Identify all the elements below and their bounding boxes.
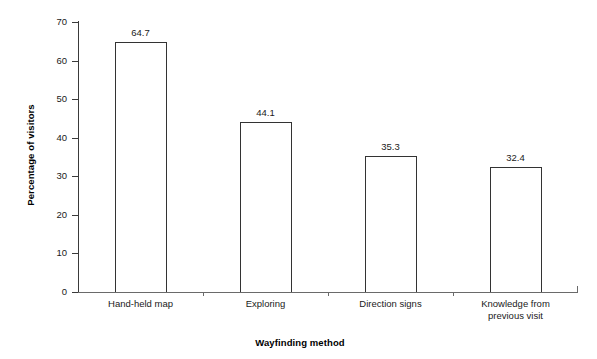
y-tick-label-40: 40 [27,133,67,143]
x-category-label-1: Hand-held map [79,298,203,310]
bar-value-label-1: 64.7 [101,27,181,38]
y-tick-40 [72,138,78,139]
x-category-label-3: Direction signs [329,298,453,310]
x-axis-end-tick [577,286,578,292]
bar-chart-figure: Percentage of visitors Wayfinding method… [0,0,597,359]
y-tick-label-10: 10 [27,248,67,258]
bar-1[interactable] [115,42,167,292]
y-axis-line [78,21,79,293]
y-tick-label-50: 50 [27,94,67,104]
x-axis-title: Wayfinding method [190,337,410,348]
x-category-label-4: Knowledge from previous visit [454,298,578,322]
y-tick-20 [72,215,78,216]
bar-value-label-4: 32.4 [476,152,556,163]
y-tick-70 [72,22,78,23]
bar-4[interactable] [490,167,542,292]
bar-3[interactable] [365,156,417,292]
bar-2[interactable] [240,122,292,292]
y-tick-label-20: 20 [27,210,67,220]
y-axis-title: Percentage of visitors [24,45,38,265]
bar-value-label-3: 35.3 [351,141,431,152]
y-tick-50 [72,99,78,100]
x-axis-separator-tick-2 [328,292,329,296]
y-tick-60 [72,61,78,62]
y-tick-label-70: 70 [27,17,67,27]
y-tick-label-30: 30 [27,171,67,181]
y-tick-30 [72,176,78,177]
x-category-label-2: Exploring [204,298,328,310]
x-axis-separator-tick-3 [453,292,454,296]
x-axis-separator-tick-1 [203,292,204,296]
y-tick-10 [72,253,78,254]
bar-value-label-2: 44.1 [226,107,306,118]
y-tick-label-0: 0 [27,287,67,297]
y-tick-0 [72,292,78,293]
y-tick-label-60: 60 [27,56,67,66]
